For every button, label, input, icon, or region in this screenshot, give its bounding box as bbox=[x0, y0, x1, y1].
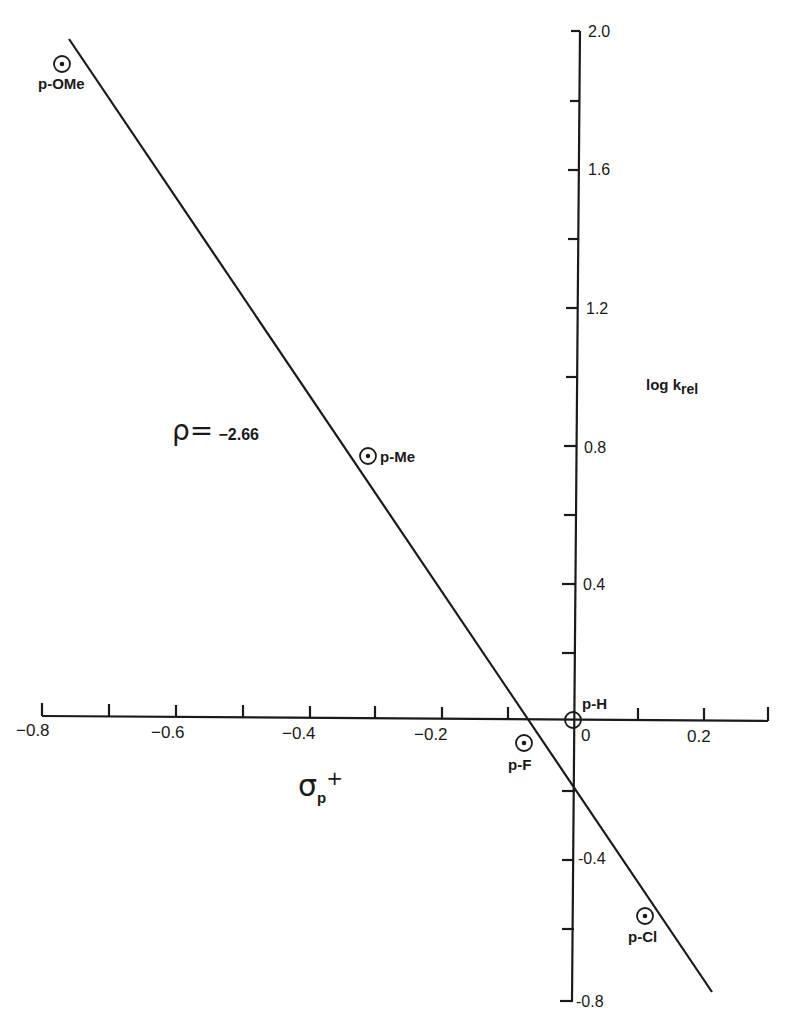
y-tick-label: 1.6 bbox=[588, 162, 610, 178]
y-tick-label: 2.0 bbox=[588, 24, 610, 40]
data-point-p-OMe bbox=[54, 56, 70, 72]
y-axis bbox=[560, 31, 580, 1001]
y-tick-label: -0.8 bbox=[576, 994, 604, 1010]
data-point-p-Me bbox=[360, 448, 376, 464]
x-tick-label: 0.2 bbox=[687, 728, 711, 745]
y-tick-label: 1.2 bbox=[586, 301, 608, 317]
y-tick-label: 0.8 bbox=[584, 440, 606, 456]
y-axis-label-main: log k bbox=[646, 376, 681, 393]
hammett-plot bbox=[0, 0, 788, 1021]
x-axis-label-sup: + bbox=[326, 766, 343, 790]
point-label-p-OMe: p-OMe bbox=[38, 76, 85, 91]
data-point-p-F bbox=[516, 735, 532, 751]
x-tick-label: −0.2 bbox=[414, 726, 448, 743]
data-point-p-Cl bbox=[637, 908, 653, 924]
point-label-p-H: p-H bbox=[582, 696, 607, 711]
x-axis bbox=[42, 703, 768, 721]
y-axis-label-sub: rel bbox=[681, 381, 698, 397]
rho-symbol: ρ= bbox=[172, 414, 213, 447]
point-label-p-Me: p-Me bbox=[380, 449, 415, 464]
y-axis-label: log krel bbox=[646, 376, 698, 397]
point-label-p-Cl: p-Cl bbox=[628, 929, 657, 944]
x-tick-label: −0.8 bbox=[16, 722, 50, 739]
point-label-p-F: p-F bbox=[508, 757, 531, 772]
regression-line bbox=[69, 39, 712, 992]
x-tick-label: −0.6 bbox=[151, 724, 185, 741]
y-tick-label: 0.4 bbox=[583, 577, 605, 593]
x-axis-label-sub: p bbox=[317, 789, 326, 806]
rho-value: −2.66 bbox=[219, 426, 259, 443]
x-tick-label: −0.4 bbox=[282, 725, 316, 742]
y-tick-label: -0.4 bbox=[578, 851, 606, 867]
rho-annotation: ρ= −2.66 bbox=[172, 417, 259, 445]
x-axis-label: σp+ bbox=[298, 768, 343, 805]
x-tick-label: 0 bbox=[581, 727, 590, 744]
x-axis-label-main: σ bbox=[298, 768, 317, 803]
